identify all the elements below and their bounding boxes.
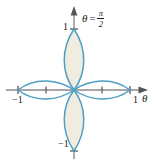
x-axis-tick-label-negative-one: −1: [12, 95, 23, 105]
origin-pole-point: [73, 89, 76, 92]
y-axis-tick-label-one: 1: [63, 22, 68, 32]
vertical-axis-arrowhead-icon: [71, 6, 78, 16]
fraction-denominator-two: 2: [98, 20, 104, 29]
x-axis-tick-label-one: 1: [133, 95, 138, 105]
polar-rose-curve-graphic: [0, 0, 155, 166]
rose-petal-up-fill: [64, 29, 84, 90]
polar-plot-figure: θ = π 2 1 −1 −1 1 θ: [0, 0, 155, 166]
annotation-pi-over-two-fraction: π 2: [97, 9, 104, 29]
annotation-theta-equals-half-pi: θ = π 2: [82, 9, 104, 29]
fraction-numerator-pi: π: [98, 9, 104, 18]
horizontal-axis-label-theta: θ: [142, 93, 147, 104]
y-axis-tick-label-negative-one: −1: [58, 139, 69, 149]
annotation-theta-symbol: θ: [82, 13, 87, 24]
annotation-equals-sign: =: [89, 14, 95, 25]
